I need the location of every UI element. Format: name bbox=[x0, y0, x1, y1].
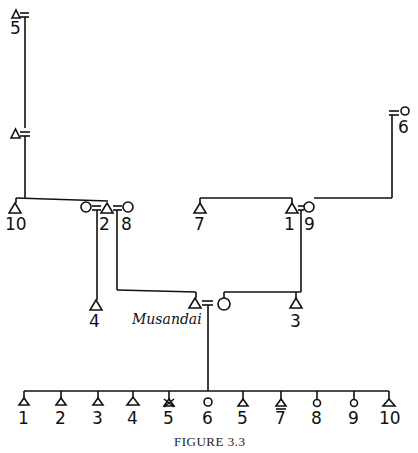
person-number: 7 bbox=[194, 214, 205, 234]
male-triangle-icon bbox=[56, 398, 66, 405]
male-triangle-icon bbox=[194, 203, 206, 213]
child-number: 3 bbox=[92, 408, 103, 428]
child-number: 4 bbox=[127, 408, 138, 428]
person-number: 10 bbox=[5, 214, 27, 234]
person-number: 8 bbox=[121, 214, 132, 234]
female-circle-icon bbox=[314, 400, 321, 407]
male-triangle-icon bbox=[127, 397, 139, 405]
female-circle-icon bbox=[401, 107, 409, 115]
child-number: 5 bbox=[163, 408, 174, 428]
male-triangle-icon bbox=[90, 300, 102, 310]
male-triangle-icon bbox=[290, 298, 302, 308]
person-number: 9 bbox=[304, 214, 315, 234]
male-triangle-icon bbox=[12, 10, 20, 18]
male-triangle-icon bbox=[276, 399, 286, 406]
female-circle-icon bbox=[123, 202, 133, 212]
kinship-diagram: 5 6 10 2 8 4 7 1 9 bbox=[0, 0, 418, 453]
person-number: 4 bbox=[89, 311, 100, 331]
ancestor-number: 6 bbox=[398, 117, 409, 137]
male-triangle-icon bbox=[101, 203, 113, 213]
ego-male-triangle-icon bbox=[189, 298, 201, 308]
child-number: 5 bbox=[237, 408, 248, 428]
male-triangle-icon bbox=[93, 398, 103, 405]
ego-label: Musandai bbox=[131, 311, 202, 327]
child-number: 9 bbox=[348, 408, 359, 428]
child-number: 6 bbox=[202, 408, 213, 428]
female-circle-icon bbox=[304, 202, 314, 212]
male-triangle-icon bbox=[19, 398, 29, 405]
male-triangle-icon bbox=[11, 129, 20, 138]
ego-wife-circle-icon bbox=[218, 298, 230, 310]
female-circle-icon bbox=[204, 398, 212, 406]
child-number: 10 bbox=[379, 408, 401, 428]
male-triangle-icon bbox=[9, 203, 21, 213]
top-ancestor: 5 bbox=[10, 10, 29, 128]
children-row: 1 2 3 4 5 6 5 7 8 9 bbox=[18, 391, 401, 428]
female-circle-icon bbox=[351, 400, 358, 407]
second-ancestor bbox=[11, 129, 30, 198]
right-ancestor: 6 bbox=[389, 107, 409, 198]
child-number: 7 bbox=[275, 408, 286, 428]
person-number: 3 bbox=[290, 311, 301, 331]
figure-caption: FIGURE 3.3 bbox=[174, 434, 245, 449]
person-number: 1 bbox=[284, 214, 295, 234]
child-number: 8 bbox=[311, 408, 322, 428]
child-number: 2 bbox=[55, 408, 66, 428]
male-triangle-icon bbox=[238, 399, 248, 406]
male-triangle-icon bbox=[286, 203, 298, 213]
female-circle-icon bbox=[81, 202, 91, 212]
person-number: 2 bbox=[99, 214, 110, 234]
ancestor-number: 5 bbox=[10, 18, 21, 38]
child-number: 1 bbox=[18, 408, 29, 428]
male-triangle-icon bbox=[383, 399, 395, 406]
